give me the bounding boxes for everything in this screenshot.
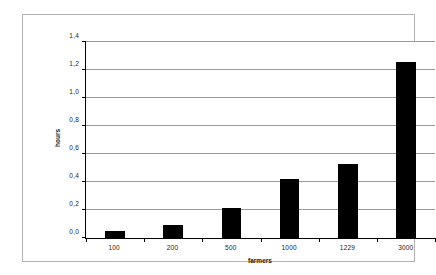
- y-axis-tick-label: 0,0: [69, 228, 79, 235]
- y-axis-tick-label: 0,8: [69, 116, 79, 123]
- y-axis-tick-label: 1,2: [69, 60, 79, 67]
- bar-slot: [261, 42, 319, 238]
- bar[interactable]: [222, 208, 242, 238]
- x-axis-tick-label: 3000: [377, 245, 435, 252]
- x-axis-tick-mark: [377, 238, 378, 242]
- bar[interactable]: [396, 62, 416, 238]
- x-axis-tick-label: 100: [85, 245, 143, 252]
- x-axis-tick-mark: [261, 238, 262, 242]
- y-axis-title: hours: [55, 129, 62, 147]
- y-axis-tick-label: 0,2: [69, 200, 79, 207]
- bar-slot: [86, 42, 144, 238]
- bar[interactable]: [163, 225, 183, 238]
- y-axis-tick-label: 0,6: [69, 144, 79, 151]
- bar-slot: [319, 42, 377, 238]
- x-axis-tick-labels: 100200500100012293000: [85, 245, 435, 252]
- x-axis-tick-mark: [202, 238, 203, 242]
- x-axis-tick-label: 1000: [260, 245, 318, 252]
- x-axis-tick-mark: [319, 238, 320, 242]
- bars-layer: [86, 42, 435, 238]
- x-axis-tick-mark: [144, 238, 145, 242]
- y-axis-tick-label: 1,4: [69, 32, 79, 39]
- bar-slot: [144, 42, 202, 238]
- bar[interactable]: [338, 164, 358, 238]
- x-axis-tick-label: 200: [143, 245, 201, 252]
- x-axis-title: farmers: [85, 258, 435, 265]
- bar-slot: [377, 42, 435, 238]
- bar[interactable]: [105, 231, 125, 238]
- chart-frame: hours 0,00,20,40,60,81,01,21,4 100200500…: [22, 14, 415, 262]
- bar-slot: [202, 42, 260, 238]
- y-axis-tick-label: 0,4: [69, 172, 79, 179]
- plot-area: 0,00,20,40,60,81,01,21,4: [85, 42, 435, 239]
- x-axis-tick-mark: [86, 238, 87, 242]
- y-axis-tick-label: 1,0: [69, 88, 79, 95]
- bar[interactable]: [280, 179, 300, 239]
- x-axis-tick-label: 1229: [318, 245, 376, 252]
- x-axis-tick-label: 500: [202, 245, 260, 252]
